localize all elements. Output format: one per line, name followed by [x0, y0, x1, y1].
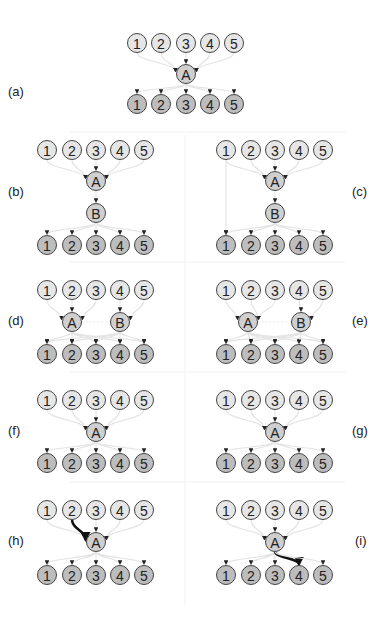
panel-label-f: (f): [8, 423, 20, 438]
input-node-i-4: 4: [290, 501, 309, 520]
svg-text:1: 1: [222, 503, 230, 519]
svg-text:5: 5: [319, 503, 327, 519]
edge-h-A-to-out5: [96, 552, 144, 565]
svg-text:5: 5: [230, 97, 238, 113]
svg-text:3: 3: [182, 36, 190, 52]
input-node-g-1: 1: [217, 391, 236, 410]
output-node-d-1: 1: [38, 345, 57, 364]
svg-text:5: 5: [140, 393, 148, 409]
input-node-g-2: 2: [242, 391, 261, 410]
edge-a-in1-to-A: [137, 53, 176, 73]
edge-h-in5-to-A: [107, 520, 145, 541]
svg-text:3: 3: [271, 283, 279, 299]
output-node-e-4: 4: [290, 345, 309, 364]
output-node-h-3: 3: [87, 566, 106, 585]
input-node-i-1: 1: [217, 501, 236, 520]
hidden-node-b-A: A: [87, 172, 106, 191]
edge-d-in1-to-A: [47, 300, 62, 321]
input-node-b-5: 5: [135, 141, 154, 160]
svg-text:4: 4: [295, 456, 303, 472]
output-node-i-3: 3: [266, 566, 285, 585]
edge-i-A-to-out1: [226, 552, 275, 565]
output-node-d-3: 3: [87, 345, 106, 364]
svg-text:1: 1: [133, 36, 141, 52]
input-node-e-4: 4: [290, 281, 309, 300]
output-node-a-4: 4: [201, 95, 220, 114]
input-node-d-5: 5: [135, 281, 154, 300]
svg-text:1: 1: [43, 568, 51, 584]
svg-text:3: 3: [92, 568, 100, 584]
output-node-g-3: 3: [266, 454, 285, 473]
edge-f-in5-to-A: [107, 410, 145, 431]
svg-text:3: 3: [92, 238, 100, 254]
svg-text:5: 5: [140, 347, 148, 363]
input-node-b-2: 2: [63, 141, 82, 160]
svg-text:A: A: [91, 174, 101, 190]
svg-text:2: 2: [247, 503, 255, 519]
hidden-node-f-A: A: [87, 423, 106, 442]
svg-text:4: 4: [116, 568, 124, 584]
edge-b-in5-to-A: [107, 160, 145, 180]
output-node-b-5: 5: [135, 236, 154, 255]
input-node-b-4: 4: [111, 141, 130, 160]
output-node-b-2: 2: [63, 236, 82, 255]
input-node-c-3: 3: [266, 141, 285, 160]
svg-text:4: 4: [116, 143, 124, 159]
svg-text:2: 2: [247, 283, 255, 299]
input-node-h-4: 4: [111, 501, 130, 520]
svg-text:4: 4: [116, 503, 124, 519]
svg-text:A: A: [270, 425, 280, 441]
svg-text:5: 5: [140, 503, 148, 519]
svg-text:5: 5: [140, 143, 148, 159]
hidden-node-c-A: A: [266, 172, 285, 191]
svg-text:3: 3: [92, 456, 100, 472]
output-node-e-3: 3: [266, 345, 285, 364]
svg-text:2: 2: [68, 283, 76, 299]
input-node-c-4: 4: [290, 141, 309, 160]
svg-text:1: 1: [222, 456, 230, 472]
output-node-h-5: 5: [135, 566, 154, 585]
input-node-h-1: 1: [38, 501, 57, 520]
svg-text:1: 1: [222, 393, 230, 409]
input-node-e-1: 1: [217, 281, 236, 300]
input-node-a-5: 5: [225, 34, 244, 53]
svg-text:4: 4: [295, 503, 303, 519]
svg-text:1: 1: [222, 283, 230, 299]
hidden-node-g-A: A: [266, 423, 285, 442]
edge-c-in5-to-A: [286, 160, 324, 180]
svg-text:2: 2: [247, 393, 255, 409]
input-node-b-1: 1: [38, 141, 57, 160]
output-node-g-1: 1: [217, 454, 236, 473]
edge-f-A-to-out5: [96, 442, 144, 453]
svg-text:2: 2: [157, 36, 165, 52]
input-node-h-2: 2: [63, 501, 82, 520]
input-node-f-1: 1: [38, 391, 57, 410]
edge-b-B-to-out1: [47, 223, 96, 235]
svg-text:4: 4: [116, 393, 124, 409]
output-node-i-5: 5: [314, 566, 333, 585]
input-node-f-4: 4: [111, 391, 130, 410]
output-node-d-5: 5: [135, 345, 154, 364]
svg-text:2: 2: [68, 143, 76, 159]
svg-text:4: 4: [295, 347, 303, 363]
hidden-node-i-A: A: [266, 533, 285, 552]
svg-text:3: 3: [92, 143, 100, 159]
edge-g-A-to-out1: [226, 442, 275, 453]
input-node-d-4: 4: [111, 281, 130, 300]
svg-text:2: 2: [247, 568, 255, 584]
input-node-a-1: 1: [128, 34, 147, 53]
svg-text:4: 4: [116, 238, 124, 254]
svg-text:4: 4: [206, 97, 214, 113]
svg-text:1: 1: [222, 568, 230, 584]
svg-text:3: 3: [182, 97, 190, 113]
svg-text:3: 3: [271, 568, 279, 584]
input-node-i-5: 5: [314, 501, 333, 520]
hidden-node-c-B: B: [266, 204, 285, 223]
svg-text:1: 1: [222, 347, 230, 363]
hidden-node-d-B: B: [111, 313, 130, 332]
svg-text:B: B: [115, 315, 124, 331]
output-node-f-2: 2: [63, 454, 82, 473]
hidden-node-e-A: A: [239, 313, 258, 332]
svg-text:2: 2: [247, 238, 255, 254]
svg-text:2: 2: [68, 238, 76, 254]
